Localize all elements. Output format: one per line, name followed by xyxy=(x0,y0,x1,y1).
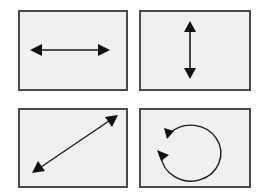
circular-arrow-icon xyxy=(157,125,221,181)
arrows-layer xyxy=(0,0,263,196)
diagonal-double-arrow-icon xyxy=(32,115,118,173)
horizontal-double-arrow-icon xyxy=(30,44,110,56)
vertical-double-arrow-icon xyxy=(184,21,196,79)
